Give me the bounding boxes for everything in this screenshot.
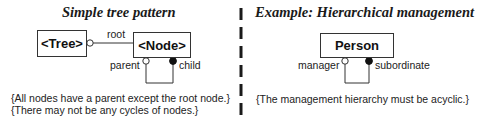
manager-hollow-circle-icon	[342, 58, 348, 64]
left-constraint-1: {All nodes have a parent except the root…	[11, 92, 230, 104]
person-class-label: Person	[335, 38, 379, 53]
tree-class-box: <Tree>	[37, 30, 87, 57]
subordinate-role-label: subordinate	[375, 59, 430, 71]
child-role-label: child	[179, 59, 201, 71]
root-hollow-circle-icon	[87, 40, 93, 46]
right-panel-title: Example: Hierarchical management	[255, 4, 474, 21]
parent-hollow-circle-icon	[143, 58, 149, 64]
root-role-label: root	[107, 28, 125, 40]
left-constraint-2: {There may not be any cycles of nodes.}	[11, 104, 198, 116]
parent-role-label: parent	[110, 59, 140, 71]
manager-role-label: manager	[298, 59, 339, 71]
left-panel-title: Simple tree pattern	[62, 4, 176, 21]
tree-class-label: <Tree>	[41, 36, 83, 51]
person-self-loop	[345, 63, 369, 83]
node-class-box: <Node>	[133, 32, 191, 58]
node-self-loop	[146, 63, 173, 83]
subordinate-filled-circle-icon	[366, 58, 373, 65]
node-class-label: <Node>	[138, 38, 186, 53]
child-filled-circle-icon	[170, 58, 177, 65]
person-class-box: Person	[320, 33, 394, 58]
right-constraint-1: {The management hierarchy must be acycli…	[256, 93, 469, 105]
